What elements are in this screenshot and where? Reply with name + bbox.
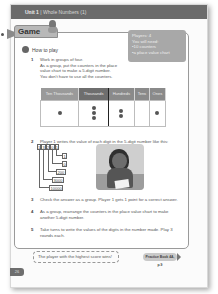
cell-ones xyxy=(149,100,165,126)
step-number: 3 xyxy=(31,197,33,203)
digit-value: 0 xyxy=(62,161,67,167)
step-1: 1 Work in groups of four. As a group, pu… xyxy=(40,57,128,79)
practice-book-link[interactable]: Practice Book 4A, p.9 xyxy=(143,253,177,261)
cell-hundreds xyxy=(108,100,134,126)
how-to-play-heading: How to play xyxy=(22,46,58,53)
step-3: 3 Check the answer as a group. Player 1 … xyxy=(40,197,190,203)
how-to-play-label: How to play xyxy=(32,47,58,53)
header-ten-thousands: Ten Thousands xyxy=(41,88,79,100)
counter-icon xyxy=(119,114,123,118)
number-expansion-diagram: 1 3 2 0 1 1 0 200 3000 10000 xyxy=(37,144,67,192)
how-to-play-badge-icon xyxy=(22,46,29,53)
header-tens: Tens xyxy=(135,88,150,100)
cell-thousands xyxy=(79,100,108,126)
digit-value: 200 xyxy=(56,169,66,175)
unit-header-bar: Unit 1 | Whole Numbers (1) xyxy=(11,5,207,19)
digit-value: 3000 xyxy=(52,177,64,183)
header-thousands: Thousands xyxy=(79,88,108,100)
cell-ten-thousands xyxy=(41,100,79,126)
cell-tens xyxy=(135,100,150,126)
step-number: 5 xyxy=(31,227,33,233)
step-5: 5 Take turns to write the values of the … xyxy=(40,227,190,238)
counter-icon xyxy=(92,116,96,120)
place-value-chart: Ten Thousands Thousands Hundreds Tens On… xyxy=(40,88,166,127)
counter-icon xyxy=(92,111,96,115)
counter-icon xyxy=(92,106,96,110)
step-number: 2 xyxy=(31,139,33,145)
mascot-icon xyxy=(47,20,57,33)
unit-label: Unit 1 xyxy=(25,9,39,15)
unit-title: Whole Numbers (1) xyxy=(43,9,86,15)
header-ones: Ones xyxy=(149,88,165,100)
header-hundreds: Hundreds xyxy=(108,88,134,100)
material-item: a place value chart xyxy=(132,50,182,56)
page-number: 26 xyxy=(10,268,24,276)
winner-note: The player with the highest score wins! xyxy=(33,251,119,263)
step-number: 4 xyxy=(31,209,33,215)
step-4: 4 As a group, rearrange the counters in … xyxy=(40,209,190,220)
materials-list: 10 counters a place value chart xyxy=(132,44,182,55)
digit-value: 10000 xyxy=(49,185,63,191)
arrow-right-icon xyxy=(177,253,181,261)
digit-value: 1 xyxy=(62,153,67,159)
bullet-dot-icon xyxy=(1,33,4,36)
step-number: 1 xyxy=(31,57,33,63)
counter-icon xyxy=(58,111,62,115)
girl-writing-photo xyxy=(96,144,144,190)
materials-box: Players: 4 You will need: 10 counters a … xyxy=(128,30,186,62)
counter-icon xyxy=(119,109,123,113)
counter-icon xyxy=(155,111,159,115)
